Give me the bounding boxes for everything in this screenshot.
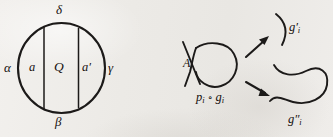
label-crossing-a: A bbox=[183, 57, 190, 69]
label-region-a: a bbox=[29, 61, 35, 74]
right-diagram: A pi∘gi g′i g″i bbox=[166, 0, 333, 137]
arrow-to-upper-result bbox=[246, 36, 269, 57]
result-arc-upper bbox=[276, 14, 285, 45]
label-gamma: γ bbox=[108, 61, 113, 74]
result-upper-subscript: i bbox=[298, 25, 300, 35]
label-result-upper: g′i bbox=[289, 21, 300, 35]
arrow-to-lower-result bbox=[246, 82, 270, 96]
label-delta: δ bbox=[56, 3, 62, 16]
label-region-q: Q bbox=[54, 60, 64, 74]
result-lower-subscript: i bbox=[299, 117, 301, 127]
caption-p-subscript: i bbox=[202, 95, 204, 105]
label-result-lower: g″i bbox=[288, 113, 302, 127]
label-beta: β bbox=[55, 115, 61, 128]
left-diagram: δ β α γ a Q a′ bbox=[0, 0, 166, 137]
figure-canvas: δ β α γ a Q a′ bbox=[0, 0, 333, 137]
caption-g-subscript: i bbox=[222, 95, 224, 105]
label-source-caption: pi∘gi bbox=[196, 91, 224, 105]
right-diagram-drawing bbox=[166, 0, 333, 137]
caption-compose-symbol: ∘ bbox=[208, 92, 213, 103]
loop-body bbox=[196, 43, 237, 87]
result-curve-lower bbox=[270, 65, 327, 103]
label-region-a-prime: a′ bbox=[82, 61, 91, 74]
label-alpha: α bbox=[4, 61, 11, 74]
